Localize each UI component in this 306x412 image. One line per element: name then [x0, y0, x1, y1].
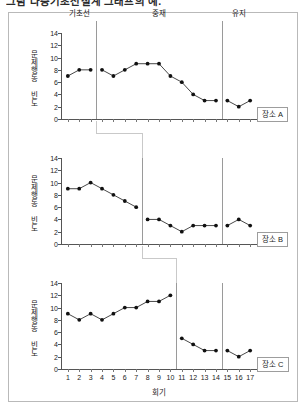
x-tick-mark: [136, 119, 137, 122]
y-axis-title-b: 문제행동 빈도: [25, 160, 39, 246]
x-tick-mark: [148, 369, 149, 372]
x-tick-mark: [227, 244, 228, 247]
data-point-marker: [157, 62, 161, 66]
x-tick-label: 8: [146, 374, 150, 382]
x-tick-mark: [216, 244, 217, 247]
data-point-marker: [89, 68, 93, 72]
x-tick-label: 14: [212, 374, 220, 382]
x-tick-mark: [250, 244, 251, 247]
figure-page: 그림 다중기초선설계 그래프의 예. 문제행동 빈도 02468101214 기…: [0, 0, 306, 412]
phase-connector-segment: [176, 258, 177, 284]
y-tick-label: 10: [50, 179, 58, 186]
phase-divider-line: [222, 283, 223, 369]
data-point-marker: [168, 224, 172, 228]
x-tick-mark: [68, 244, 69, 247]
x-tick-mark: [250, 119, 251, 122]
data-point-marker: [214, 99, 218, 103]
series-segment: [68, 183, 136, 208]
y-tick-label: 14: [50, 280, 58, 287]
series-line-c: [61, 283, 257, 369]
data-point-marker: [89, 181, 93, 185]
x-tick-mark: [136, 369, 137, 372]
data-point-marker: [191, 224, 195, 228]
data-point-marker: [123, 199, 127, 203]
plot-area-c: 02468101214 1234567891011121314151617: [61, 283, 257, 369]
series-line-a: [61, 33, 257, 119]
x-tick-mark: [148, 244, 149, 247]
data-point-marker: [203, 224, 207, 228]
x-tick-mark: [113, 244, 114, 247]
x-tick-mark: [159, 244, 160, 247]
x-tick-mark: [91, 119, 92, 122]
phase-divider-line: [222, 21, 223, 119]
x-tick-label: 7: [134, 374, 138, 382]
x-tick-label: 6: [123, 374, 127, 382]
plot-area-b: 02468101214: [61, 158, 257, 244]
x-tick-mark: [159, 119, 160, 122]
x-tick-label: 1: [66, 374, 70, 382]
y-tick-mark: [58, 244, 61, 245]
x-tick-mark: [205, 244, 206, 247]
x-tick-mark: [182, 369, 183, 372]
x-tick-mark: [170, 119, 171, 122]
x-tick-mark: [91, 244, 92, 247]
phase-divider-line: [142, 158, 143, 244]
y-tick-label: 12: [50, 292, 58, 299]
x-tick-mark: [193, 369, 194, 372]
data-point-marker: [237, 355, 241, 359]
data-point-marker: [191, 343, 195, 347]
series-segment: [68, 295, 171, 320]
x-tick-mark: [227, 369, 228, 372]
data-point-marker: [77, 68, 81, 72]
data-point-marker: [66, 74, 70, 78]
x-tick-mark: [216, 369, 217, 372]
x-tick-label: 15: [223, 374, 231, 382]
x-tick-mark: [250, 369, 251, 372]
y-axis-title-a: 문제행동 빈도: [25, 35, 39, 121]
x-tick-mark: [125, 244, 126, 247]
x-tick-label: 10: [166, 374, 174, 382]
phase-divider-line: [96, 21, 97, 119]
data-point-marker: [134, 62, 138, 66]
x-tick-mark: [79, 369, 80, 372]
chart-panel-place-c: 문제행동 빈도 02468101214 12345678910111213141…: [9, 269, 299, 394]
x-tick-mark: [205, 119, 206, 122]
x-tick-label: 4: [100, 374, 104, 382]
phase-label: 기초선: [69, 9, 90, 18]
data-point-marker: [146, 300, 150, 304]
x-tick-mark: [239, 119, 240, 122]
x-tick-mark: [170, 369, 171, 372]
phase-connector-segment: [142, 246, 143, 258]
phase-connector-segment: [96, 121, 97, 133]
phase-divider-line: [222, 158, 223, 244]
x-tick-label: 2: [77, 374, 81, 382]
x-axis-title: 회기: [152, 388, 166, 397]
plot-area-a: 02468101214 기초선중재유지: [61, 33, 257, 119]
x-tick-mark: [68, 369, 69, 372]
phase-label: 중재: [152, 9, 166, 18]
data-point-marker: [237, 218, 241, 222]
data-point-marker: [77, 318, 81, 322]
y-tick-label: 10: [50, 304, 58, 311]
x-tick-mark: [102, 369, 103, 372]
figure-frame: 문제행동 빈도 02468101214 기초선중재유지 장소 A 문제행동 빈도…: [8, 12, 298, 402]
data-point-marker: [225, 224, 229, 228]
x-tick-mark: [102, 119, 103, 122]
phase-connector-segment: [142, 258, 176, 259]
x-tick-mark: [113, 119, 114, 122]
x-tick-mark: [205, 369, 206, 372]
x-tick-label: 5: [111, 374, 115, 382]
data-point-marker: [157, 300, 161, 304]
y-axis-title-c: 문제행동 빈도: [25, 285, 39, 371]
x-tick-mark: [227, 119, 228, 122]
data-point-marker: [66, 312, 70, 316]
x-tick-mark: [182, 244, 183, 247]
data-point-marker: [77, 187, 81, 191]
y-tick-label: 12: [50, 42, 58, 49]
data-point-marker: [100, 318, 104, 322]
data-point-marker: [191, 93, 195, 97]
data-point-marker: [214, 224, 218, 228]
phase-connector-segment: [96, 133, 142, 134]
data-point-marker: [225, 99, 229, 103]
phase-label: 유지: [232, 9, 246, 18]
